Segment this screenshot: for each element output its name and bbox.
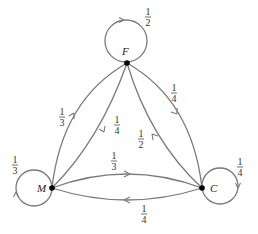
svg-text:3: 3 (60, 117, 65, 128)
label-C-F: 1 2 (138, 128, 144, 150)
arrow-loop-M (14, 192, 19, 197)
loop-M (16, 170, 52, 206)
svg-text:4: 4 (172, 93, 177, 104)
label-F-M: 1 4 (114, 114, 120, 136)
svg-text:3: 3 (13, 165, 18, 176)
svg-text:3: 3 (112, 161, 117, 172)
svg-text:1: 1 (238, 156, 243, 167)
label-M-F: 1 3 (59, 106, 65, 128)
node-label-F: F (121, 45, 129, 57)
edge-C-F (127, 63, 202, 188)
svg-text:1: 1 (142, 203, 147, 214)
label-F-C: 1 4 (171, 82, 177, 104)
svg-text:1: 1 (146, 6, 151, 17)
edge-F-C (127, 63, 202, 188)
arrow-C-F (152, 134, 158, 140)
label-M-M: 1 3 (12, 154, 18, 176)
svg-text:1: 1 (112, 150, 117, 161)
label-C-M: 1 4 (141, 203, 147, 225)
svg-text:1: 1 (172, 82, 177, 93)
svg-text:1: 1 (115, 114, 120, 125)
svg-text:4: 4 (115, 125, 120, 136)
label-C-C: 1 4 (237, 156, 243, 178)
svg-text:1: 1 (13, 154, 18, 165)
node-M (49, 185, 55, 191)
svg-text:1: 1 (139, 128, 144, 139)
svg-text:4: 4 (238, 167, 243, 178)
label-M-C: 1 3 (111, 150, 117, 172)
svg-text:4: 4 (142, 214, 147, 225)
svg-text:2: 2 (146, 17, 151, 28)
markov-diagram: F M C 1 2 1 3 1 4 1 3 1 4 1 4 1 2 1 3 (0, 0, 258, 234)
label-F-F: 1 2 (145, 6, 151, 28)
node-label-M: M (36, 182, 47, 194)
node-C (199, 185, 205, 191)
arrow-F-M (99, 126, 105, 132)
svg-text:2: 2 (139, 139, 144, 150)
node-label-C: C (210, 182, 218, 194)
loop-C (202, 168, 238, 204)
svg-text:1: 1 (60, 106, 65, 117)
node-F (124, 60, 130, 66)
